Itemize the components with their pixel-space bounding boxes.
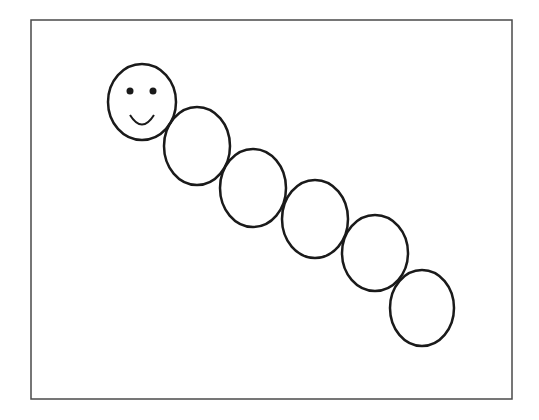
left-eye <box>127 88 134 95</box>
caterpillar-figure <box>0 0 539 420</box>
smile-mouth <box>130 115 154 125</box>
body-segments <box>164 107 454 346</box>
frame-border <box>31 20 512 399</box>
head-circle <box>108 64 176 140</box>
right-eye <box>150 88 157 95</box>
body-segment <box>282 180 348 258</box>
body-segment <box>342 215 408 291</box>
caterpillar-head <box>108 64 176 140</box>
body-segment <box>390 270 454 346</box>
body-segment <box>220 149 286 227</box>
